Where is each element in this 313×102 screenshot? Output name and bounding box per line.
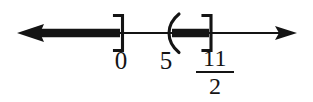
tick-label-five: 5 — [151, 48, 181, 73]
fraction-denominator: 2 — [209, 74, 221, 99]
number-line-figure: 0 5 11 2 — [0, 0, 313, 102]
fraction-numerator: 11 — [203, 46, 227, 70]
tick-label-zero: 0 — [106, 48, 136, 73]
tick-label-eleven-halves: 11 2 — [192, 46, 238, 100]
